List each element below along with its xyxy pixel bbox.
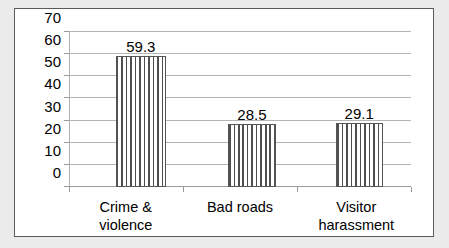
bar-crime-violence[interactable]: 59.3	[116, 56, 166, 187]
y-tick-label-20: 20	[44, 120, 61, 135]
category-label-line-2: harassment	[318, 216, 394, 234]
y-tick-label-0: 0	[53, 165, 61, 180]
category-label-visitor-harassment: Visitor harassment	[318, 198, 394, 234]
plot-area: 70 60 50 40 30 20 10 0 59.3 28.5	[69, 32, 411, 187]
y-tick-label-40: 40	[44, 76, 61, 91]
category-label-line-1: Crime &	[99, 198, 152, 216]
bar-value-label-bad-roads: 28.5	[237, 107, 266, 122]
x-tick-mark-2	[297, 187, 298, 192]
y-tick-mark-40	[64, 97, 69, 98]
y-tick-mark-20	[64, 142, 69, 143]
category-label-line-2: violence	[99, 216, 152, 234]
x-tick-mark-3	[411, 187, 412, 192]
y-tick-label-50: 50	[44, 54, 61, 69]
gridline-70	[69, 31, 411, 32]
bar-bad-roads[interactable]: 28.5	[228, 124, 276, 187]
category-label-line-1: Bad roads	[207, 198, 273, 216]
bar-value-label-visitor-harassment: 29.1	[345, 106, 374, 121]
category-label-crime-violence: Crime & violence	[99, 198, 152, 234]
y-tick-mark-60	[64, 53, 69, 54]
y-tick-mark-70	[64, 31, 69, 32]
y-tick-mark-30	[64, 120, 69, 121]
y-tick-mark-50	[64, 75, 69, 76]
x-tick-mark-1	[183, 187, 184, 192]
y-tick-label-60: 60	[44, 32, 61, 47]
gridline-60	[69, 53, 411, 54]
category-label-bad-roads: Bad roads	[207, 198, 273, 216]
y-tick-mark-10	[64, 164, 69, 165]
chart-frame: 70 60 50 40 30 20 10 0 59.3 28.5	[14, 8, 434, 237]
bar-visitor-harassment[interactable]: 29.1	[336, 123, 383, 187]
y-tick-label-30: 30	[44, 98, 61, 113]
y-tick-label-70: 70	[44, 10, 61, 25]
y-tick-label-10: 10	[44, 142, 61, 157]
x-tick-mark-0	[69, 187, 70, 192]
category-label-line-1: Visitor	[318, 198, 394, 216]
bar-value-label-crime-violence: 59.3	[126, 39, 155, 54]
